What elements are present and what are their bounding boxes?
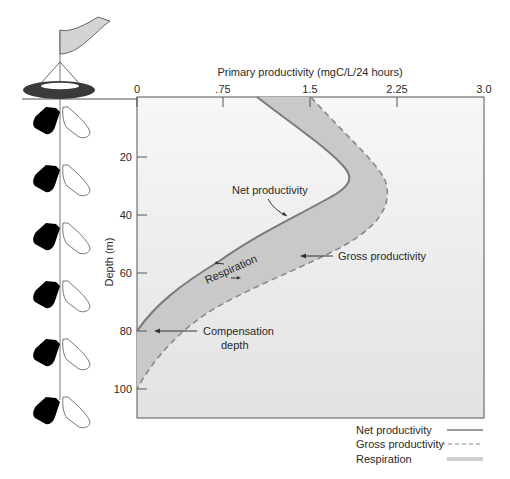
legend-gross-label: Gross productivity — [356, 438, 445, 450]
y-tick-100: 100 — [114, 383, 132, 395]
x-tick-3: 2.25 — [386, 83, 407, 95]
dark-bottle-icon — [33, 107, 60, 134]
bottle-pair-3 — [33, 223, 90, 254]
y-tick-20: 20 — [120, 151, 132, 163]
legend-respiration-label: Respiration — [356, 453, 412, 465]
light-bottle-icon — [63, 107, 90, 138]
x-tick-1: .75 — [215, 83, 230, 95]
x-tick-4: 3.0 — [476, 83, 491, 95]
dark-bottle-icon — [33, 397, 60, 424]
x-tick-0: 0 — [134, 83, 140, 95]
dark-bottle-icon — [33, 281, 60, 308]
dark-bottle-icon — [33, 223, 60, 250]
productivity-chart: 0 .75 1.5 2.25 3.0 Primary productivity … — [0, 0, 510, 479]
y-axis-title: Depth (m) — [103, 238, 115, 287]
x-axis-title: Primary productivity (mgC/L/24 hours) — [217, 66, 402, 78]
light-bottle-icon — [63, 281, 90, 312]
gross-productivity-annotation: Gross productivity — [338, 250, 427, 262]
legend-respiration-swatch — [447, 457, 483, 461]
light-bottle-icon — [63, 165, 90, 196]
y-tick-40: 40 — [120, 209, 132, 221]
dark-bottle-icon — [33, 165, 60, 192]
bottle-pair-6 — [33, 397, 90, 428]
light-bottle-icon — [63, 223, 90, 254]
light-bottle-icon — [63, 339, 90, 370]
net-productivity-annotation: Net productivity — [232, 184, 308, 196]
light-bottle-icon — [63, 397, 90, 428]
legend: Net productivity Gross productivity Resp… — [356, 424, 483, 465]
y-tick-80: 80 — [120, 325, 132, 337]
bottle-pair-2 — [33, 165, 90, 196]
compensation-depth-annotation: Compensation — [203, 325, 274, 337]
compensation-depth-annotation-2: depth — [221, 339, 249, 351]
y-tick-60: 60 — [120, 267, 132, 279]
bottle-pair-1 — [33, 107, 90, 138]
flag-icon — [60, 17, 110, 54]
legend-net-label: Net productivity — [356, 424, 432, 436]
bottle-pair-5 — [33, 339, 90, 370]
x-tick-2: 1.5 — [302, 83, 317, 95]
dark-bottle-icon — [33, 339, 60, 366]
bottle-pair-4 — [33, 281, 90, 312]
